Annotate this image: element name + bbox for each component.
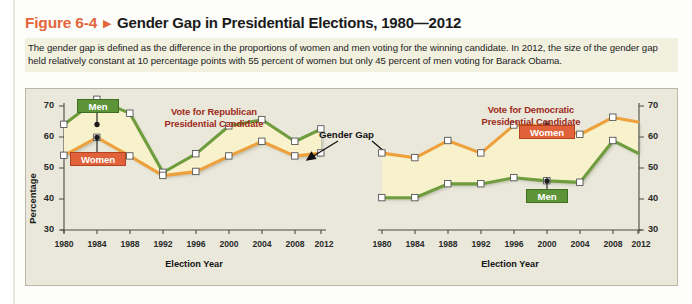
y-tick-left-70: 70 [28, 100, 54, 110]
figure-title-row: Figure 6-4 ▶ Gender Gap in Presidential … [25, 14, 680, 32]
republican-chart-heading: Vote for Republican Presidential Candida… [144, 106, 284, 129]
x-tick-left-2012: 2012 [309, 239, 339, 249]
y-axis-title-left: Percentage [27, 173, 38, 224]
democratic-women-badge: Women [519, 125, 575, 139]
y-tick-left-30: 30 [28, 224, 54, 234]
x-tick-right-1984: 1984 [400, 239, 430, 249]
x-tick-right-1988: 1988 [433, 239, 463, 249]
x-tick-left-1988: 1988 [115, 239, 145, 249]
x-axis-title-left: Election Year [114, 259, 274, 269]
x-tick-right-1992: 1992 [466, 239, 496, 249]
figure-caption: The gender gap is defined as the differe… [28, 41, 678, 67]
y-tick-right-70: 70 [648, 100, 674, 110]
page-left-margin [0, 0, 14, 304]
figure-header: Figure 6-4 ▶ Gender Gap in Presidential … [25, 14, 680, 32]
figure-title: Gender Gap in Presidential Elections, 19… [117, 14, 461, 31]
x-tick-left-2008: 2008 [280, 239, 310, 249]
democratic-men-badge: Men [526, 189, 568, 203]
x-tick-left-1984: 1984 [82, 239, 112, 249]
y-tick-left-60: 60 [28, 131, 54, 141]
y-tick-right-40: 40 [648, 193, 674, 203]
triangle-marker-icon: ▶ [103, 18, 111, 29]
chart-panel-inner: Vote for Republican Presidential Candida… [26, 89, 677, 285]
y-tick-left-50: 50 [28, 162, 54, 172]
republican-women-badge: Women [70, 152, 126, 166]
y-tick-right-60: 60 [648, 131, 674, 141]
x-tick-left-1980: 1980 [49, 239, 79, 249]
republican-men-badge: Men [77, 99, 119, 113]
gender-gap-annotation-label: Gender Gap [319, 129, 374, 140]
page-margin-rule [13, 0, 15, 304]
figure-number: Figure 6-4 [25, 14, 97, 32]
figure-page: Figure 6-4 ▶ Gender Gap in Presidential … [0, 0, 692, 304]
x-tick-right-1996: 1996 [499, 239, 529, 249]
x-axis-title-right: Election Year [430, 259, 590, 269]
x-tick-right-2012: 2012 [626, 239, 656, 249]
x-tick-left-1996: 1996 [181, 239, 211, 249]
x-tick-right-2008: 2008 [598, 239, 628, 249]
x-tick-left-2000: 2000 [214, 239, 244, 249]
chart-panel: Vote for Republican Presidential Candida… [25, 88, 678, 286]
x-tick-right-1980: 1980 [367, 239, 397, 249]
y-tick-right-50: 50 [648, 162, 674, 172]
y-tick-right-30: 30 [648, 224, 674, 234]
x-tick-left-1992: 1992 [148, 239, 178, 249]
x-tick-right-2000: 2000 [532, 239, 562, 249]
democratic-chart-heading: Vote for Democratic Presidential Candida… [456, 104, 606, 127]
x-tick-left-2004: 2004 [247, 239, 277, 249]
x-tick-right-2004: 2004 [565, 239, 595, 249]
